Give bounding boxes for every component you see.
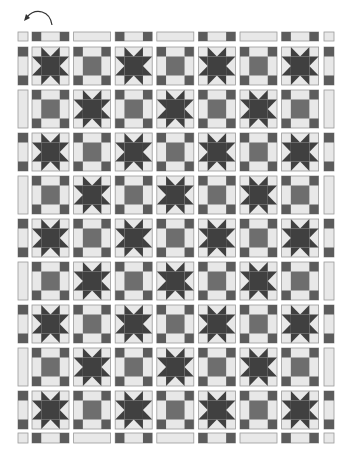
sashing-vertical bbox=[18, 348, 28, 386]
corner-square bbox=[18, 433, 28, 443]
corner-square bbox=[18, 32, 28, 41]
sashing-vertical bbox=[324, 90, 334, 128]
sashing-horizontal bbox=[240, 32, 277, 41]
corner-square bbox=[324, 433, 334, 443]
sashing-horizontal bbox=[157, 32, 194, 41]
sashing-horizontal bbox=[157, 433, 194, 443]
sashing-vertical bbox=[324, 348, 334, 386]
sashing-horizontal bbox=[74, 32, 111, 41]
sashing-vertical bbox=[324, 262, 334, 300]
corner-square bbox=[324, 32, 334, 41]
sashing-vertical bbox=[18, 176, 28, 214]
sashing-horizontal bbox=[240, 433, 277, 443]
sashing-vertical bbox=[18, 262, 28, 300]
sashing-vertical bbox=[18, 90, 28, 128]
quilt-diagram bbox=[0, 0, 337, 450]
sashing-vertical bbox=[324, 176, 334, 214]
sashing-horizontal bbox=[74, 433, 111, 443]
